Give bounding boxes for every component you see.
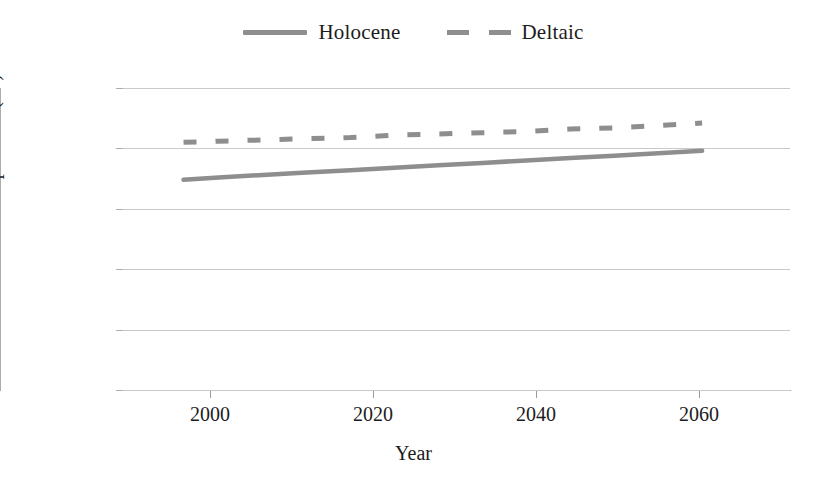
legend-entry-holocene[interactable]: Holocene	[243, 22, 400, 43]
legend-entry-deltaic[interactable]: Deltaic	[447, 22, 584, 43]
gridline-0	[122, 390, 790, 391]
chart-figure: Holocene Deltaic 25 20 15 10 5 0 2000 20…	[0, 0, 827, 491]
plot-area	[122, 88, 790, 390]
x-tick-label-2000: 2000	[165, 404, 255, 424]
dashed-line-swatch-icon	[447, 30, 511, 35]
chart-legend: Holocene Deltaic	[0, 22, 827, 43]
series-line-deltaic[interactable]	[184, 123, 703, 142]
y-axis-title: Mean annual temperature (°C)	[0, 0, 2, 406]
x-tick-2000	[210, 391, 211, 398]
series-line-holocene[interactable]	[184, 151, 703, 180]
x-tick-2040	[536, 391, 537, 398]
x-tick-label-2060: 2060	[654, 404, 744, 424]
x-tick-2020	[373, 391, 374, 398]
x-tick-2060	[699, 391, 700, 398]
x-tick-label-2020: 2020	[328, 404, 418, 424]
y-tick-0	[116, 390, 123, 391]
legend-label-deltaic: Deltaic	[522, 22, 584, 43]
x-tick-label-2040: 2040	[491, 404, 581, 424]
x-axis-title: Year	[0, 443, 827, 463]
legend-label-holocene: Holocene	[318, 22, 400, 43]
series-canvas	[122, 88, 790, 390]
solid-line-swatch-icon	[243, 30, 307, 35]
